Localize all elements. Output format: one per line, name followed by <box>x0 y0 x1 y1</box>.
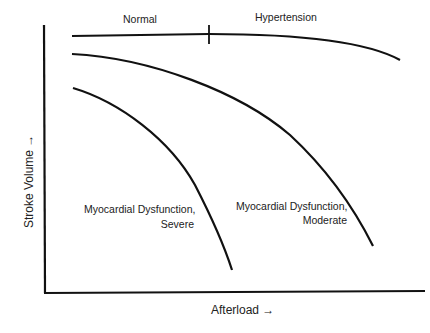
hypertension-label: Hypertension <box>255 10 317 24</box>
y-axis <box>44 25 45 293</box>
normal-label: Normal <box>123 12 157 26</box>
moderate-label-line2: Moderate <box>236 213 347 227</box>
afterload-stroke-volume-diagram <box>0 0 430 333</box>
moderate-dysfunction-label: Myocardial Dysfunction, Moderate <box>236 199 347 227</box>
severe-dysfunction-label: Myocardial Dysfunction, Severe <box>84 202 194 231</box>
severe-label-line2: Severe <box>84 217 194 231</box>
x-axis-label: Afterload → <box>211 303 274 317</box>
x-axis <box>44 291 425 293</box>
severe-label-line1: Myocardial Dysfunction, <box>84 202 194 216</box>
y-axis-label: Stroke Volume → <box>22 135 36 228</box>
normal-hypertension-curve <box>72 34 400 60</box>
severe-dysfunction-curve <box>73 88 232 270</box>
moderate-label-line1: Myocardial Dysfunction, <box>236 199 347 213</box>
